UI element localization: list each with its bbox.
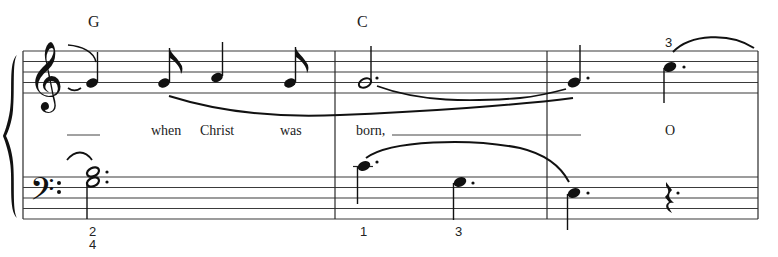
grand-staff-brace: [3, 55, 17, 218]
fingering-number: 1: [360, 224, 367, 239]
lyric-syllable: was: [280, 123, 302, 138]
fingering-number: 4: [89, 237, 96, 252]
lyric-syllable: when: [151, 123, 181, 138]
slur: [366, 142, 569, 182]
bass-clef-dot: [57, 190, 61, 194]
lyric-syllable: O: [665, 123, 675, 138]
fingering-number: 3: [665, 35, 672, 50]
augmentation-dot: [105, 180, 108, 183]
chord-symbol: C: [357, 13, 368, 30]
treble-clef-icon: 𝄞: [28, 42, 63, 113]
augmentation-dot: [375, 160, 378, 163]
augmentation-dot: [676, 191, 679, 194]
tie: [68, 88, 81, 90]
bass-staff: [23, 177, 758, 219]
augmentation-dot: [586, 191, 589, 194]
tie: [68, 45, 96, 62]
augmentation-dot: [105, 170, 108, 173]
augmentation-dot: [471, 181, 474, 184]
lyric-syllable: Christ: [200, 123, 234, 138]
augmentation-dot: [586, 76, 589, 79]
grand-staff: 𝄞 𝄢 G C 3 when Christ was born, O: [0, 0, 778, 257]
tie: [67, 153, 92, 161]
augmentation-dot: [375, 76, 378, 79]
bass-clef-dot: [57, 181, 61, 185]
fingering-number: 3: [455, 224, 462, 239]
notehead: [356, 159, 371, 172]
treble-staff: [23, 51, 758, 93]
lyric-syllable: born,: [356, 123, 385, 138]
slur: [673, 37, 754, 52]
chord-symbol: G: [88, 13, 100, 30]
bass-clef-icon: 𝄢: [30, 172, 54, 214]
augmentation-dot: [682, 65, 685, 68]
